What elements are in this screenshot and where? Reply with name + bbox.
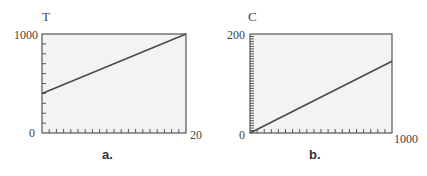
chart-a-caption: a. [102, 147, 113, 162]
plot-frame [250, 34, 392, 133]
plot-frame [42, 34, 186, 133]
chart-a: T 1000 0 20 a. [0, 0, 210, 176]
chart-b: C 200 0 1000 b. [210, 0, 427, 176]
chart-b-caption: b. [309, 147, 321, 162]
